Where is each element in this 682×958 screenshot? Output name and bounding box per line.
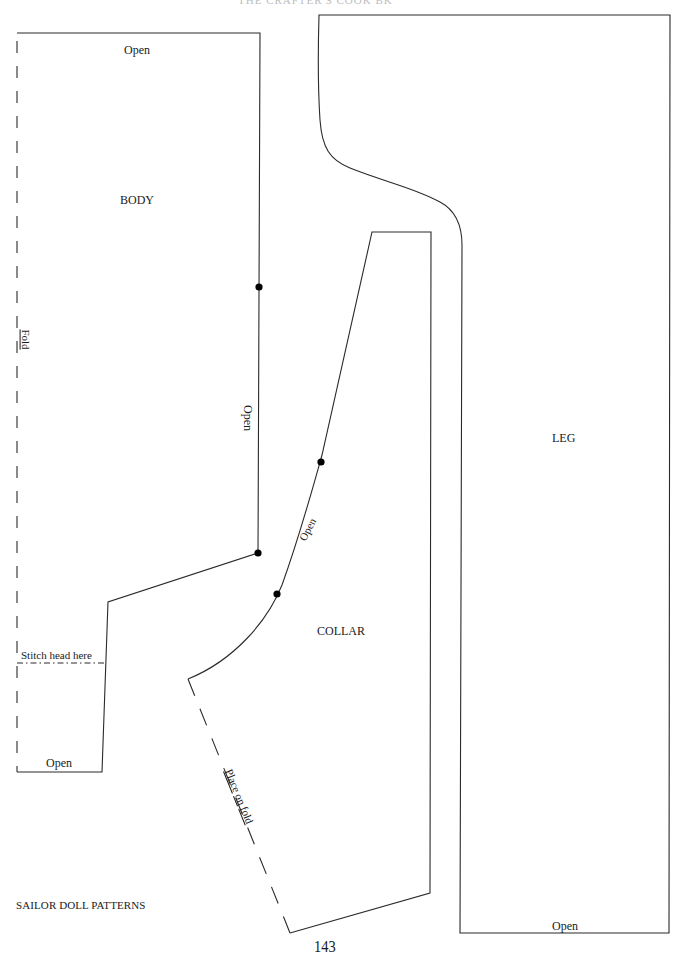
body-notch-dot-lower <box>254 549 261 556</box>
body-piece-outline <box>17 33 260 772</box>
body-title: BODY <box>120 194 154 206</box>
pattern-shapes <box>0 0 682 958</box>
body-side-open-label: Open <box>242 405 254 431</box>
collar-piece-outline <box>188 232 431 933</box>
stitch-head-label: Stitch head here <box>21 650 92 661</box>
leg-piece-outline <box>318 15 670 933</box>
leg-bottom-open-label: Open <box>552 920 578 932</box>
collar-title: COLLAR <box>317 625 365 637</box>
body-bottom-open-label: Open <box>46 757 72 769</box>
collar-notch-dot-upper <box>317 458 324 465</box>
body-fold-label: Fold <box>20 329 31 349</box>
page-number: 143 <box>314 938 336 955</box>
leg-title: LEG <box>552 432 575 444</box>
collar-notch-dot-lower <box>273 590 280 597</box>
body-notch-dot-upper <box>255 283 262 290</box>
footer-title: SAILOR DOLL PATTERNS <box>16 900 146 911</box>
body-top-open-label: Open <box>124 44 150 56</box>
pattern-page: THE CRAFTER'S COOK BK <box>0 0 682 958</box>
